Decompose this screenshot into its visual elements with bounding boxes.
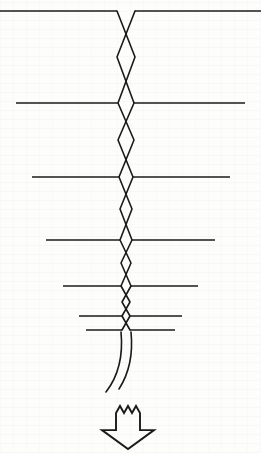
figure-canvas: [0, 0, 261, 453]
braid-diagram-svg: [0, 0, 261, 453]
